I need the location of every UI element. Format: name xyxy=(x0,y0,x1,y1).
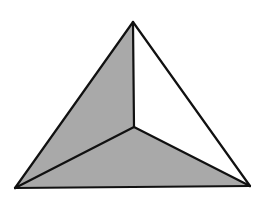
edge-apex-interior xyxy=(133,22,134,127)
pyramid-diagram xyxy=(0,0,256,212)
